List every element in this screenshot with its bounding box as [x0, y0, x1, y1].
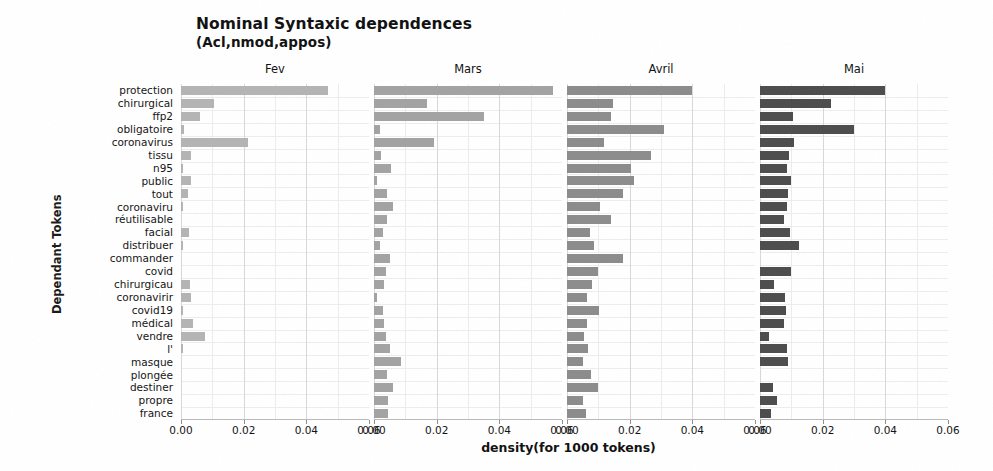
- bar: [760, 267, 791, 276]
- bar: [374, 319, 384, 328]
- x-axis-line: [374, 419, 562, 420]
- grid-line-vertical: [692, 84, 693, 420]
- bar: [374, 332, 386, 341]
- bar: [181, 138, 248, 147]
- bar: [374, 99, 427, 108]
- bar: [567, 176, 634, 185]
- chart-figure: Nominal Syntaxic dependences (Acl,nmod,a…: [0, 0, 993, 471]
- bar: [374, 254, 390, 263]
- bar: [181, 344, 183, 353]
- y-axis-tick-label: distribuer: [122, 240, 173, 251]
- facet-panel-avril: [567, 84, 755, 420]
- bar: [374, 383, 393, 392]
- bar: [567, 319, 587, 328]
- y-axis-tick-label: tissu: [148, 150, 173, 161]
- y-axis-tick-label: covid19: [132, 305, 173, 316]
- bar: [374, 215, 387, 224]
- bar: [374, 125, 380, 134]
- bar: [567, 86, 692, 95]
- y-axis-tick-label: plongée: [131, 370, 173, 381]
- y-axis-tick-label: commander: [110, 253, 173, 264]
- bar: [567, 112, 611, 121]
- bar: [374, 202, 393, 211]
- bar: [567, 332, 584, 341]
- grid-line-vertical-minor: [917, 84, 918, 420]
- x-axis-tick-label: 0.06: [936, 424, 959, 436]
- bar: [374, 86, 553, 95]
- bar: [181, 112, 200, 121]
- bar: [567, 125, 664, 134]
- bar: [567, 254, 623, 263]
- grid-line-vertical-minor: [531, 84, 532, 420]
- grid-line-vertical: [499, 84, 500, 420]
- facet-panel-mai: [760, 84, 948, 420]
- x-axis-tick-label: 0.02: [232, 424, 255, 436]
- bar: [567, 215, 611, 224]
- facet-panel-title: Avril: [567, 62, 755, 76]
- bar: [567, 396, 583, 405]
- bar: [374, 280, 384, 289]
- bar: [181, 86, 328, 95]
- y-axis-tick-label: france: [140, 408, 173, 419]
- bar: [374, 189, 387, 198]
- grid-line-vertical: [760, 84, 761, 420]
- bar: [374, 138, 434, 147]
- bar: [567, 383, 598, 392]
- y-axis-tick-label: l': [167, 344, 173, 355]
- grid-line-vertical: [885, 84, 886, 420]
- grid-line-vertical: [181, 84, 182, 420]
- y-axis-tick-label: propre: [139, 395, 173, 406]
- bar: [760, 280, 774, 289]
- bar: [567, 357, 583, 366]
- y-axis-tick-label: coronaviru: [117, 202, 173, 213]
- bar: [567, 306, 599, 315]
- y-axis-tick-label: facial: [145, 227, 173, 238]
- y-axis-tick-label: tout: [152, 189, 173, 200]
- y-axis-tick-label: réutilisable: [115, 214, 173, 225]
- bar: [567, 344, 588, 353]
- x-axis-line: [760, 419, 948, 420]
- bar: [760, 228, 790, 237]
- y-axis-tick-label: coronavirir: [117, 292, 173, 303]
- grid-line-vertical-minor: [405, 84, 406, 420]
- bar: [760, 202, 787, 211]
- x-axis-tick-label: 0.04: [488, 424, 511, 436]
- grid-line-vertical: [306, 84, 307, 420]
- bar: [567, 370, 591, 379]
- bar: [760, 409, 771, 418]
- x-axis-tick-label: 0.02: [618, 424, 641, 436]
- bar: [760, 215, 784, 224]
- bar: [374, 396, 388, 405]
- facet-panel-title: Fev: [181, 62, 369, 76]
- bar: [567, 138, 604, 147]
- grid-line-vertical-minor: [338, 84, 339, 420]
- y-axis-tick-label: chirurgicau: [114, 279, 173, 290]
- y-axis-tick-label: médical: [132, 318, 173, 329]
- bar: [760, 125, 854, 134]
- bar: [567, 228, 590, 237]
- bar: [181, 151, 191, 160]
- grid-line-vertical: [823, 84, 824, 420]
- bar: [181, 176, 191, 185]
- bar: [760, 86, 885, 95]
- bar: [567, 293, 587, 302]
- x-axis-line: [567, 419, 755, 420]
- facet-panel-mars: [374, 84, 562, 420]
- bar: [760, 138, 794, 147]
- y-axis-tick-label: protection: [119, 85, 173, 96]
- bar: [374, 112, 484, 121]
- bar: [374, 151, 381, 160]
- bar: [567, 409, 586, 418]
- plot-area: [567, 84, 755, 420]
- bar: [181, 280, 190, 289]
- x-axis-tick-label: 0.04: [295, 424, 318, 436]
- bar: [374, 293, 377, 302]
- grid-line-vertical: [437, 84, 438, 420]
- x-axis-tick-label: 0.02: [811, 424, 834, 436]
- x-axis-tick-label: 0.00: [748, 424, 771, 436]
- bar: [567, 164, 631, 173]
- bar: [760, 176, 791, 185]
- facet-panel-title: Mai: [760, 62, 948, 76]
- bar: [567, 267, 598, 276]
- plot-area: [181, 84, 369, 420]
